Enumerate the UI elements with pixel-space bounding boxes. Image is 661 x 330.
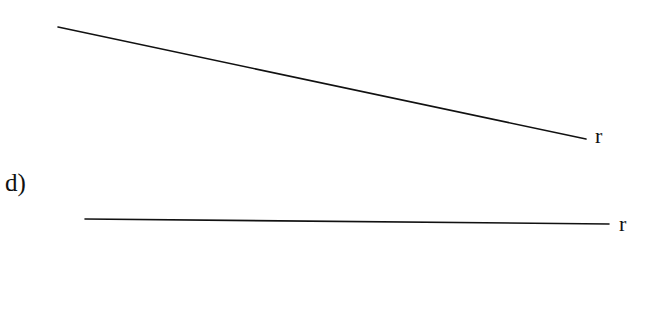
lower-line-label: r — [619, 213, 626, 235]
diagram-canvas: d) r r — [0, 0, 661, 330]
upper-line-label: r — [595, 125, 602, 147]
lower-line — [85, 219, 609, 224]
upper-line — [58, 27, 586, 139]
part-label: d) — [5, 170, 26, 195]
lines-svg — [0, 0, 661, 330]
